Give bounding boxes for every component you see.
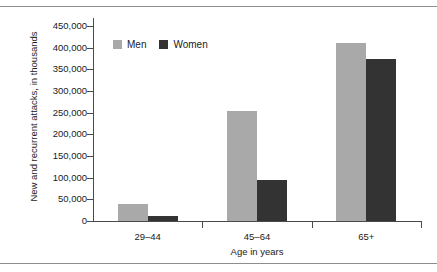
figure-page: New and recurrent attacks, in thousands … — [0, 0, 437, 272]
x-axis-tick-label: 65+ — [326, 231, 406, 242]
y-axis-tick-label: 400,000 — [32, 43, 87, 53]
x-axis-tick-label: 45–64 — [217, 231, 297, 242]
y-axis-tick-label: 300,000 — [32, 86, 87, 96]
y-axis-tick — [87, 221, 93, 222]
y-axis-tick-label: 250,000 — [32, 108, 87, 118]
cut-off-text — [186, 0, 306, 4]
bar-chart: New and recurrent attacks, in thousands … — [0, 7, 437, 263]
legend-item-women: Women — [159, 39, 207, 50]
group-separator — [421, 221, 422, 228]
bar-women-3 — [366, 59, 396, 222]
y-axis-tick-label: 450,000 — [32, 21, 87, 31]
x-axis-title: Age in years — [93, 246, 421, 257]
x-axis-tick-label: 29–44 — [108, 231, 188, 242]
y-axis-tick-label: 200,000 — [32, 129, 87, 139]
bar-women-2 — [257, 180, 287, 221]
legend-label: Women — [173, 39, 207, 50]
legend-item-men: Men — [113, 39, 146, 50]
chart-legend: MenWomen — [113, 39, 208, 50]
legend-swatch-icon — [159, 40, 168, 49]
legend-label: Men — [127, 39, 146, 50]
y-axis-tick-label: 50,000 — [32, 194, 87, 204]
page-divider-bottom — [0, 263, 437, 264]
bar-men-2 — [227, 111, 257, 221]
bar-men-3 — [336, 43, 366, 221]
legend-swatch-icon — [113, 40, 122, 49]
x-axis-line — [93, 221, 421, 222]
y-axis-tick-label: 0 — [32, 216, 87, 226]
y-axis-tick-label: 150,000 — [32, 151, 87, 161]
bar-women-1 — [148, 216, 178, 221]
group-separator — [202, 221, 203, 228]
y-axis-tick-label: 350,000 — [32, 64, 87, 74]
bar-men-1 — [118, 204, 148, 221]
y-axis-tick-label: 100,000 — [32, 173, 87, 183]
group-separator — [312, 221, 313, 228]
